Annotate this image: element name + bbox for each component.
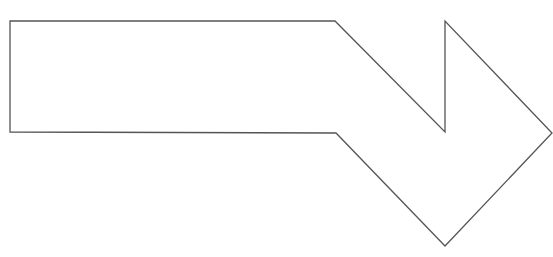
diagram-canvas — [0, 0, 553, 257]
diagram-svg — [0, 0, 553, 257]
bent-arrow-shape — [10, 21, 552, 246]
